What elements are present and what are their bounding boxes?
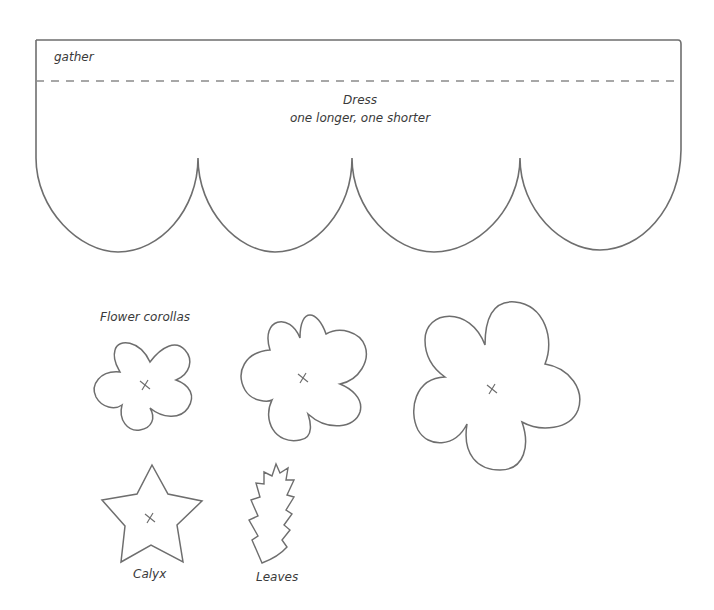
corolla-medium xyxy=(241,315,366,441)
calyx-pattern-piece xyxy=(102,465,202,562)
corolla-small xyxy=(94,343,191,431)
corolla-large xyxy=(414,302,580,470)
sewing-pattern-sheet: gather Dress one longer, one shorter Flo… xyxy=(0,0,714,610)
dress-title: Dress xyxy=(280,93,440,107)
pattern-drawing xyxy=(0,0,714,610)
dress-note: one longer, one shorter xyxy=(260,111,460,125)
leaves-label: Leaves xyxy=(256,570,298,584)
gather-label: gather xyxy=(54,50,94,64)
leaf-pattern-piece xyxy=(249,464,294,563)
corollas-label: Flower corollas xyxy=(100,310,190,324)
dress-pattern-piece xyxy=(36,40,681,252)
calyx-label: Calyx xyxy=(133,567,166,581)
